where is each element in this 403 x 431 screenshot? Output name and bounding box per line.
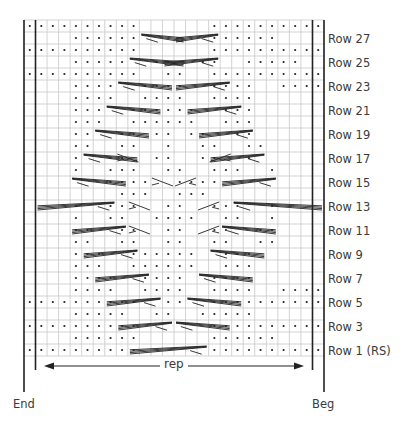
row-label: Row 19 — [328, 129, 370, 141]
row-label: Row 23 — [328, 81, 370, 93]
cable-right-icon — [222, 178, 276, 186]
cable-right-icon — [38, 202, 115, 210]
row-label: Row 9 — [328, 249, 363, 261]
row-label: Row 1 (RS) — [328, 345, 391, 357]
cable-right-icon — [84, 250, 138, 258]
row-label: Row 5 — [328, 297, 363, 309]
row-label: Row 27 — [328, 33, 370, 45]
cable-right-icon — [130, 346, 207, 354]
cable-left-icon — [211, 250, 265, 258]
cable-left-icon — [222, 226, 276, 234]
cable-left-icon — [188, 298, 242, 306]
rep-arrow-left-head — [44, 363, 54, 370]
cable-right-icon — [118, 322, 172, 330]
cable-left-icon — [72, 178, 126, 186]
cable-right-icon — [188, 106, 242, 114]
row-label: Row 13 — [328, 201, 370, 213]
cable-right-icon — [72, 226, 126, 234]
row-label: Row 3 — [328, 321, 363, 333]
end-label: End — [13, 397, 35, 411]
row-label: Row 11 — [328, 225, 370, 237]
row-label: Row 25 — [328, 57, 370, 69]
cable-right-icon — [95, 274, 149, 282]
row-label: Row 15 — [328, 177, 370, 189]
cable-left-icon — [107, 106, 161, 114]
cable-right-icon — [107, 298, 161, 306]
row-label: Row 21 — [328, 105, 370, 117]
cable-left-icon — [95, 130, 149, 138]
cable-right-icon — [199, 130, 253, 138]
chart-grid — [24, 20, 324, 356]
rep-arrow-right-head — [294, 363, 304, 370]
cable-right-icon — [164, 58, 218, 66]
cable-left-icon — [176, 322, 230, 330]
row-label: Row 7 — [328, 273, 363, 285]
beg-label: Beg — [312, 397, 334, 411]
rep-label: rep — [160, 357, 188, 371]
cable-left-icon — [118, 82, 172, 90]
cable-right-icon — [176, 82, 230, 90]
cable-left-icon — [199, 274, 253, 282]
row-label: Row 17 — [328, 153, 370, 165]
